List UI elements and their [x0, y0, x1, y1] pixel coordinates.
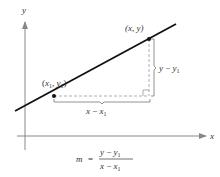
point-x1-y1-label: (x1, y1): [42, 78, 67, 89]
formula-denominator: x − x1: [99, 161, 121, 172]
y-axis-label: y: [21, 5, 26, 15]
right-angle-marker: [143, 90, 149, 96]
formula-equals: =: [88, 154, 93, 164]
run-label: x − x1: [85, 106, 107, 117]
x-axis-label: x: [209, 131, 214, 141]
formula-lhs: m: [76, 154, 83, 164]
slope-diagram: y x (x1, y1) (x, y) y − y1 x − x1 m = y …: [0, 0, 220, 177]
rise-label: y − y1: [158, 63, 180, 74]
point-x1-y1: [52, 94, 56, 98]
point-x-y-label: (x, y): [125, 23, 143, 33]
run-bracket: [54, 99, 150, 104]
slope-formula: m = y − y1 x − x1: [76, 147, 133, 172]
point-x-y: [147, 37, 151, 41]
line: [15, 24, 176, 111]
rise-bracket: [151, 39, 156, 96]
formula-numerator: y − y1: [99, 147, 121, 158]
